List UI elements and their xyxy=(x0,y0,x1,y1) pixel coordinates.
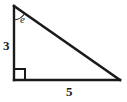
triangle-figure: e 3 5 xyxy=(0,0,127,102)
vertical-leg-label: 3 xyxy=(3,39,10,52)
right-angle-square-icon xyxy=(14,69,25,80)
hypotenuse-line xyxy=(14,6,120,80)
base-leg-label: 5 xyxy=(66,85,73,98)
angle-label: e xyxy=(20,14,25,25)
